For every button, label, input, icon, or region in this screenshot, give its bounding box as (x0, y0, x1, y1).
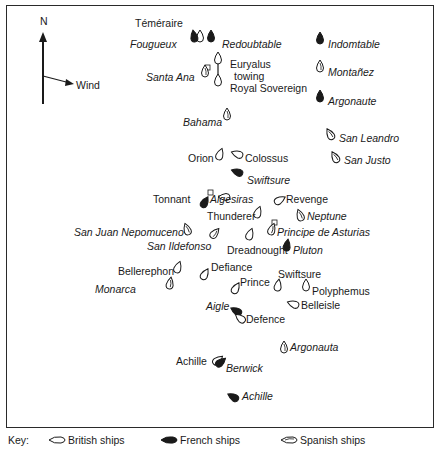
legend: Key: British ships French ships Spanish … (8, 432, 438, 448)
ship-label: Belleisle (301, 299, 340, 311)
ship-label: Revenge (286, 193, 328, 205)
ship-label: Principe de Asturias (277, 226, 370, 238)
wind-label: Wind (76, 79, 100, 91)
ship-label: Redoubtable (222, 38, 282, 50)
legend-title: Key: (8, 434, 29, 446)
ship-label: Colossus (245, 152, 288, 164)
spanish-ship-icon (279, 340, 289, 354)
ship-label: San Ildefonso (147, 240, 211, 252)
spanish-ship-icon (280, 436, 298, 444)
ship-label: Swiftsure (247, 174, 290, 186)
ship-label: Achille (242, 390, 273, 402)
ship-label: Berwick (226, 362, 263, 374)
british-ship-icon (48, 436, 66, 444)
ship-label: Pluton (293, 244, 323, 256)
ship-label: Tonnant (153, 193, 190, 205)
ship-label: Defence (246, 313, 285, 325)
french-ship-icon (206, 29, 216, 43)
ship-label: Royal Sovereign (230, 82, 307, 94)
spanish-ship-icon (200, 64, 210, 78)
legend-french-label: French ships (180, 434, 240, 446)
ship-label: Santa Ana (146, 71, 195, 83)
ship-label: San Leandro (339, 132, 399, 144)
spanish-ship-icon (222, 107, 232, 121)
ship-label: Prince (240, 276, 270, 288)
spanish-ship-icon (315, 59, 325, 73)
ship-label: Fougueux (130, 38, 177, 50)
ship-label: Neptune (307, 210, 347, 222)
ship-label: Monarca (95, 283, 136, 295)
french-ship-icon (315, 89, 325, 103)
ship-label: Argonauta (290, 341, 338, 353)
ship-label: Achille (176, 355, 207, 367)
ship-label: Bellerephon (118, 265, 174, 277)
ship-label: towing (234, 70, 264, 82)
ship-label: Téméraire (135, 17, 183, 29)
british-ship-icon (213, 73, 223, 87)
british-ship-icon (213, 51, 223, 65)
french-ship-icon (160, 436, 178, 444)
ship-label: Euryalus (230, 58, 271, 70)
ship-label: Algesiras (210, 193, 253, 205)
ship-label: Indomtable (328, 38, 380, 50)
ship-label: Thunderer (207, 210, 255, 222)
ship-label: Polyphemus (312, 285, 370, 297)
french-ship-icon (315, 31, 325, 45)
ship-label: San Juan Nepomuceno (74, 226, 184, 238)
ship-label: Aigle (206, 300, 229, 312)
ship-label: Defiance (211, 261, 252, 273)
ship-label: Bahama (183, 116, 222, 128)
ship-label: San Justo (344, 154, 391, 166)
ship-label: Argonaute (328, 95, 376, 107)
ship-label: Dreadnought (227, 244, 288, 256)
north-label: N (40, 15, 48, 27)
ship-label: Montañez (328, 66, 374, 78)
legend-spanish-label: Spanish ships (300, 434, 365, 446)
legend-british-label: British ships (68, 434, 125, 446)
ship-label: Orion (188, 152, 214, 164)
british-ship-icon (301, 278, 311, 292)
north-arrow-icon (30, 22, 110, 112)
ship-label: Swiftsure (278, 268, 321, 280)
